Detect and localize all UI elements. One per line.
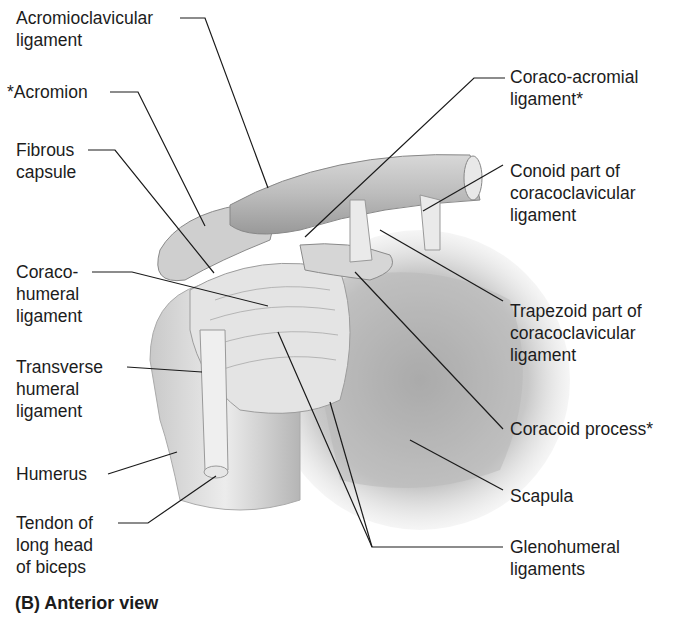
label-tendon-long-head-biceps: Tendon of long head of biceps (16, 512, 93, 578)
label-acromioclavicular-ligament: Acromioclavicular ligament (16, 7, 153, 51)
label-coracohumeral-ligament: Coraco- humeral ligament (16, 261, 82, 327)
label-coracoid-process: Coracoid process* (510, 418, 653, 440)
label-glenohumeral-ligaments: Glenohumeral ligaments (510, 536, 620, 580)
biceps-tendon-shape (200, 330, 228, 470)
label-coraco-acromial-ligament: Coraco-acromial ligament* (510, 66, 638, 110)
label-acromion: *Acromion (7, 81, 88, 103)
label-fibrous-capsule: Fibrous capsule (16, 139, 76, 183)
label-transverse-humeral-ligament: Transverse humeral ligament (16, 356, 103, 422)
figure-caption: (B) Anterior view (15, 593, 158, 614)
shoulder-ligaments-figure: Acromioclavicular ligament *Acromion Fib… (0, 0, 675, 624)
label-trapezoid-part: Trapezoid part of coracoclavicular ligam… (510, 300, 642, 366)
label-conoid-part: Conoid part of coracoclavicular ligament (510, 160, 635, 226)
label-scapula: Scapula (510, 485, 573, 507)
label-humerus: Humerus (16, 463, 87, 485)
